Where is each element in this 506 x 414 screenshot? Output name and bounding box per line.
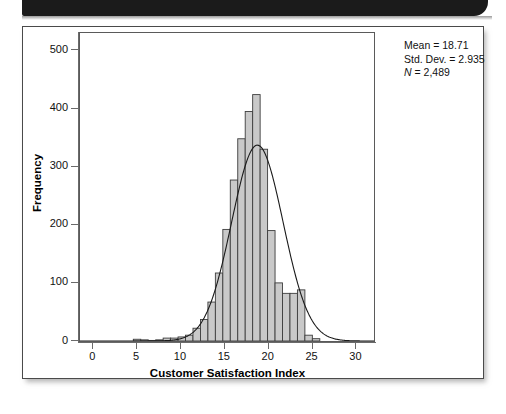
x-axis-tick-label: 10 xyxy=(165,351,195,362)
x-axis-line xyxy=(79,342,376,343)
x-axis-tick-mark xyxy=(224,343,225,349)
y-axis-tick-label: 200 xyxy=(23,218,68,229)
y-axis-tick-mark xyxy=(71,108,78,109)
x-axis-title: Customer Satisfaction Index xyxy=(79,367,376,379)
stat-stddev: Std. Dev. = 2.935 xyxy=(404,53,506,67)
stat-n-symbol: N xyxy=(404,66,412,78)
x-axis-tick-mark xyxy=(92,343,93,349)
stat-n: N = 2,489 xyxy=(404,66,506,80)
y-axis-tick-mark xyxy=(71,282,78,283)
x-axis-tick-label: 30 xyxy=(340,351,370,362)
normal-curve-path xyxy=(80,145,374,341)
y-axis-tick-mark xyxy=(71,224,78,225)
normal-distribution-curve xyxy=(80,33,374,341)
x-axis-tick-mark xyxy=(268,343,269,349)
y-axis-tick-mark xyxy=(71,49,78,50)
y-axis-tick-label: 400 xyxy=(23,102,68,113)
figure-panel: 0100200300400500 051015202530 Frequency … xyxy=(22,26,484,379)
stat-n-value: = 2,489 xyxy=(412,66,450,78)
x-axis-tick-mark xyxy=(355,343,356,349)
x-axis-tick-label: 25 xyxy=(297,351,327,362)
y-axis-tick-label: 300 xyxy=(23,160,68,171)
x-axis-tick-label: 15 xyxy=(209,351,239,362)
plot-wrap: 0100200300400500 051015202530 Frequency … xyxy=(23,27,485,380)
y-axis-tick-mark xyxy=(71,166,78,167)
y-axis-tick-label: 500 xyxy=(23,44,68,55)
x-axis-tick-label: 5 xyxy=(121,351,151,362)
stat-mean: Mean = 18.71 xyxy=(404,39,506,53)
x-axis-tick-mark xyxy=(180,343,181,349)
y-axis-tick-label: 0 xyxy=(23,335,68,346)
x-axis-tick-label: 0 xyxy=(77,351,107,362)
x-axis-tick-mark xyxy=(312,343,313,349)
y-axis-tick-label: 100 xyxy=(23,276,68,287)
statistics-annotation: Mean = 18.71 Std. Dev. = 2.935 N = 2,489 xyxy=(404,39,506,80)
page-top-dark-band xyxy=(22,0,488,16)
x-axis-tick-label: 20 xyxy=(253,351,283,362)
plot-area xyxy=(79,32,375,342)
page-top-band-shadow xyxy=(22,16,492,20)
y-axis-title: Frequency xyxy=(31,123,43,243)
x-axis-tick-mark xyxy=(136,343,137,349)
y-axis-tick-mark xyxy=(71,340,78,341)
